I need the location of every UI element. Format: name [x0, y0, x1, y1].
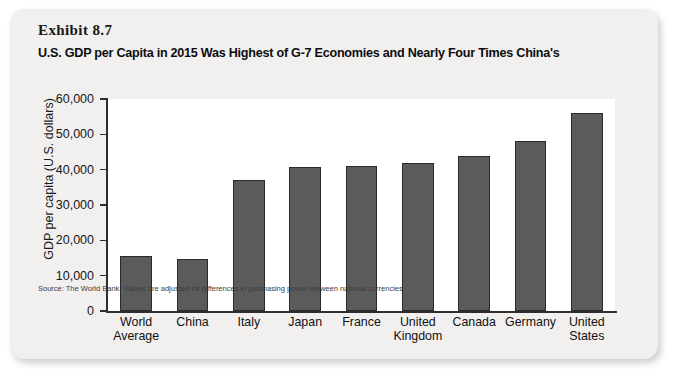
bar: [402, 163, 434, 311]
y-axis-tick-label: 30,000: [56, 198, 94, 212]
bar: [458, 156, 490, 311]
y-axis-tick-label: 40,000: [56, 163, 94, 177]
bar-slot: Germany: [502, 99, 558, 311]
bar-slot: Japan: [277, 99, 333, 311]
bar-slot: WorldAverage: [108, 99, 164, 311]
y-axis-tick: 10,000: [100, 275, 107, 277]
page-root: Exhibit 8.7 U.S. GDP per Capita in 2015 …: [0, 0, 675, 376]
bar-slot: France: [333, 99, 389, 311]
bar-slot: Italy: [221, 99, 277, 311]
y-axis-tick: 40,000: [100, 169, 107, 171]
y-axis-tick: 20,000: [100, 240, 107, 242]
x-axis-category-label: UnitedStates: [551, 316, 623, 343]
y-axis-tick-label: 0: [87, 304, 94, 318]
y-axis-tick-label: 10,000: [56, 269, 94, 283]
y-axis-tick: 30,000: [100, 204, 107, 206]
bar: [515, 141, 547, 311]
y-axis-tick-label: 20,000: [56, 233, 94, 247]
y-axis-tick-label: 60,000: [56, 92, 94, 106]
y-axis-tick-label: 50,000: [56, 127, 94, 141]
exhibit-card: Exhibit 8.7 U.S. GDP per Capita in 2015 …: [10, 9, 658, 359]
bar-slot: UnitedKingdom: [390, 99, 446, 311]
bar-series: WorldAverageChinaItalyJapanFranceUnitedK…: [108, 99, 615, 311]
bar-slot: China: [164, 99, 220, 311]
y-axis-tick: 50,000: [100, 134, 107, 136]
y-axis-title: GDP per capita (U.S. dollars): [42, 69, 56, 289]
x-axis-line: [106, 311, 617, 313]
bar-slot: Canada: [446, 99, 502, 311]
page-title: U.S. GDP per Capita in 2015 Was Highest …: [38, 46, 560, 60]
bar-slot: UnitedStates: [559, 99, 615, 311]
bar: [571, 113, 603, 311]
y-axis-tick: 60,000: [100, 98, 107, 100]
source-note: Source: The World Bank. Values are adjus…: [38, 284, 405, 293]
exhibit-label: Exhibit 8.7: [38, 22, 112, 39]
y-axis-tick: 0: [100, 310, 107, 312]
